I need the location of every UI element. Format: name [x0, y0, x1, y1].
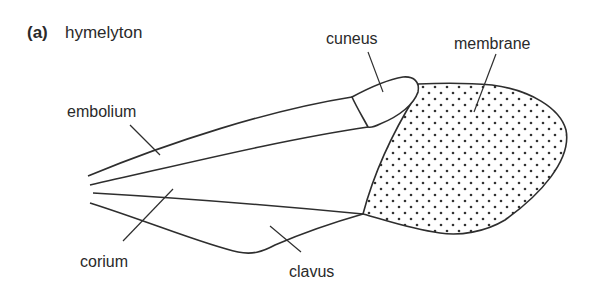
label-clavus: clavus [289, 264, 334, 280]
embolium-corium-boundary [90, 127, 368, 185]
label-embolium: embolium [67, 104, 136, 120]
clavus-leader [270, 226, 301, 252]
label-cuneus: cuneus [326, 31, 378, 47]
label-membrane: membrane [454, 36, 530, 52]
claval-suture [93, 193, 363, 214]
hemelytron-diagram: (a) hymelyton embolium cuneus membrane c… [0, 0, 591, 300]
figure-title: hymelyton [65, 24, 142, 41]
label-corium: corium [80, 254, 128, 270]
panel-tag: (a) [27, 24, 48, 41]
embolium-leader [130, 125, 160, 155]
